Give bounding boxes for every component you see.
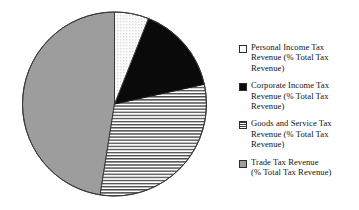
legend-item-trade-tax[interactable]: Trade Tax Revenue (% Total Tax Revenue) [239,157,359,178]
legend-item-goods-service-tax[interactable]: Goods and Service Tax Revenue (% Total T… [239,118,359,149]
legend-item-label: Trade Tax Revenue (% Total Tax Revenue) [251,157,331,178]
legend-item-personal-income-tax[interactable]: Personal Income Tax Revenue (% Total Tax… [239,42,359,73]
pie-chart-figure: Personal Income Tax Revenue (% Total Tax… [0,0,359,210]
legend-item-corporate-income-tax[interactable]: Corporate Income Tax Revenue (% Total Ta… [239,80,359,111]
dotted-white-swatch-icon [239,45,247,53]
legend-item-label: Personal Income Tax Revenue (% Total Tax… [251,42,329,73]
pie-chart-plot-area [0,0,222,210]
pie-chart-svg [0,0,222,210]
legend-item-label: Goods and Service Tax Revenue (% Total T… [251,118,332,149]
pie-slice-trade-tax [22,12,114,195]
horizontal-lines-swatch-icon [239,121,247,129]
chart-legend: Personal Income Tax Revenue (% Total Tax… [239,42,359,184]
solid-black-swatch-icon [239,83,247,91]
legend-item-label: Corporate Income Tax Revenue (% Total Ta… [251,80,329,111]
solid-gray-swatch-icon [239,160,247,168]
